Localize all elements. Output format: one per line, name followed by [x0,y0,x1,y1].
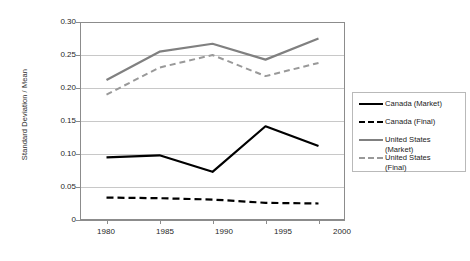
series-line-0 [107,126,319,172]
legend-item-label: United States (Final) [385,153,431,172]
legend-item-label: Canada (Market) [385,99,442,109]
x-tick-label: 1990 [204,227,244,236]
legend-item-label: United States (Market) [385,135,431,154]
legend-line-swatch-canada-final [359,117,383,127]
legend-line-swatch-canada-market [359,99,383,109]
legend-item: United States (Market) [359,135,465,154]
x-tick-label: 1980 [86,227,126,236]
legend-item: Canada (Final) [359,117,465,127]
series-line-1 [107,198,319,204]
legend-item-label: Canada (Final) [385,117,435,127]
series-line-2 [107,39,319,81]
x-tick-label: 1995 [263,227,303,236]
chart-legend: Canada (Market) Canada (Final) United St… [352,92,466,172]
legend-item: United States (Final) [359,153,465,172]
x-tick-label: 1985 [145,227,185,236]
legend-item: Canada (Market) [359,99,465,109]
legend-line-swatch-us-final [359,153,383,163]
legend-line-swatch-us-market [359,135,383,145]
x-tick-label: 2000 [322,227,362,236]
line-chart: Standard Deviation / Mean 0.30 0.25 0.20… [0,0,470,261]
